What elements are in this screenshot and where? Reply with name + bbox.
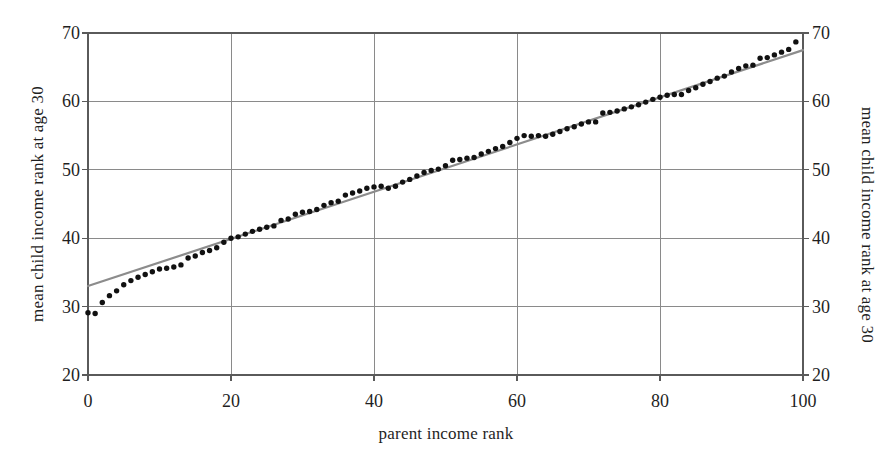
y-tick-label: 50 <box>812 161 852 179</box>
y-tick-label: 30 <box>40 298 80 316</box>
y-tick-label: 60 <box>40 92 80 110</box>
x-tick-0: 0 <box>58 392 118 410</box>
y-axis-title-left: mean child income rank at age 30 <box>28 4 48 404</box>
y-tick-label: 70 <box>812 24 852 42</box>
x-axis-title: parent income rank <box>88 424 804 444</box>
y-tick-label: 20 <box>40 366 80 384</box>
chart-figure: mean child income rank at age 30 mean ch… <box>0 0 887 461</box>
y-tick-label: 40 <box>40 229 80 247</box>
y-tick-label: 60 <box>812 92 852 110</box>
y-tick-label: 20 <box>812 366 852 384</box>
x-tick-20: 20 <box>201 392 261 410</box>
axis-frame <box>88 33 803 375</box>
y-axis-title-right: mean child income rank at age 30 <box>857 25 877 425</box>
fit-line <box>88 50 803 286</box>
x-tick-40: 40 <box>344 392 404 410</box>
grid-layer <box>88 33 803 375</box>
x-tick-80: 80 <box>630 392 690 410</box>
y-tick-label: 70 <box>40 24 80 42</box>
scatter-points <box>85 39 798 316</box>
x-tick-60: 60 <box>487 392 547 410</box>
plot-canvas <box>0 0 887 461</box>
tick-marks <box>82 33 809 381</box>
x-tick-100: 100 <box>773 392 833 410</box>
y-tick-label: 30 <box>812 298 852 316</box>
y-tick-label: 50 <box>40 161 80 179</box>
y-tick-label: 40 <box>812 229 852 247</box>
